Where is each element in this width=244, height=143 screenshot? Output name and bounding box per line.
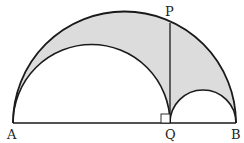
- shaded-region: [13, 12, 236, 124]
- label-Q: Q: [165, 127, 176, 142]
- label-B: B: [231, 127, 241, 142]
- label-A: A: [6, 127, 17, 142]
- label-P: P: [165, 4, 174, 19]
- arbelos-diagram: P A Q B: [0, 0, 244, 143]
- right-angle-marker: [161, 114, 170, 123]
